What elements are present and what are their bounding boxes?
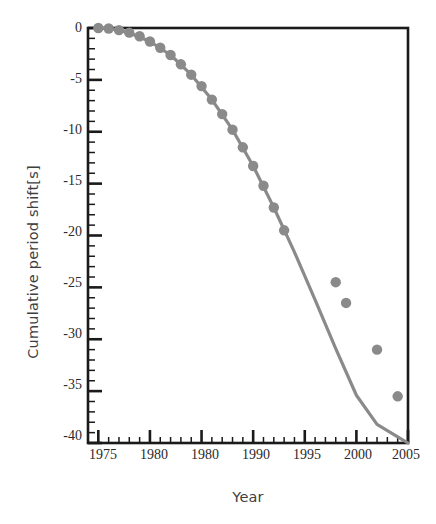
data-point [248,161,258,171]
data-point [258,181,268,191]
data-point [279,225,289,235]
data-point [103,23,113,33]
data-point [217,109,227,119]
y-axis-ticks [88,28,102,443]
data-point [392,391,402,401]
data-point [331,277,341,287]
data-point [176,59,186,69]
data-point [124,27,134,37]
data-point [196,81,206,91]
data-point [341,298,351,308]
plot-area [0,0,436,524]
data-point [186,69,196,79]
chart-figure: Cumulative period shift[s] 0 -5 -10 -15 … [0,0,436,524]
data-point [155,43,165,53]
data-point [238,142,248,152]
data-point [114,25,124,35]
data-point [134,31,144,41]
axes-frame [88,28,408,443]
x-axis-ticks [88,430,408,443]
data-point [207,94,217,104]
data-point [372,344,382,354]
data-point [165,50,175,60]
data-curve [95,28,408,443]
data-point [145,36,155,46]
data-point [269,202,279,212]
data-point [227,124,237,134]
data-point [93,23,103,33]
data-point-markers [93,23,403,402]
